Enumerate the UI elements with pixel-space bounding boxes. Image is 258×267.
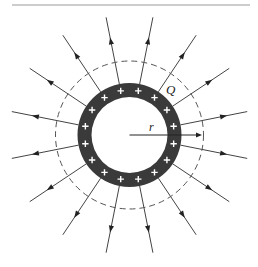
field-diagram: r Q (0, 0, 258, 267)
field-line (173, 68, 230, 106)
arrowhead-icon (179, 210, 185, 217)
field-line (158, 178, 196, 235)
arrowhead-icon (145, 225, 150, 232)
field-line (12, 145, 79, 158)
arrowhead-icon (220, 114, 227, 119)
field-line (106, 186, 119, 253)
field-line (63, 178, 101, 235)
field-line (181, 112, 248, 125)
field-line (30, 68, 87, 106)
arrowhead-icon (47, 80, 54, 86)
arrowhead-icon (179, 52, 185, 59)
arrowhead-icon (205, 80, 212, 86)
arrowhead-icon (145, 37, 150, 44)
field-line (12, 112, 79, 125)
field-line (106, 17, 119, 84)
arrowhead-icon (74, 52, 80, 59)
field-line (158, 35, 196, 92)
charge-label: Q (166, 82, 176, 97)
field-line (181, 145, 248, 158)
arrowhead-icon (74, 210, 80, 217)
field-line (63, 35, 101, 92)
arrowhead-icon (205, 184, 212, 190)
radius-label: r (149, 120, 154, 134)
arrowhead-icon (32, 150, 39, 155)
arrowhead-icon (47, 184, 54, 190)
field-line (30, 164, 87, 202)
arrowhead-icon (109, 225, 114, 232)
arrowhead-icon (32, 114, 39, 119)
arrowhead-icon (109, 37, 114, 44)
field-line (140, 186, 153, 253)
arrowhead-icon (220, 150, 227, 155)
field-line (140, 17, 153, 84)
field-line (173, 164, 230, 202)
